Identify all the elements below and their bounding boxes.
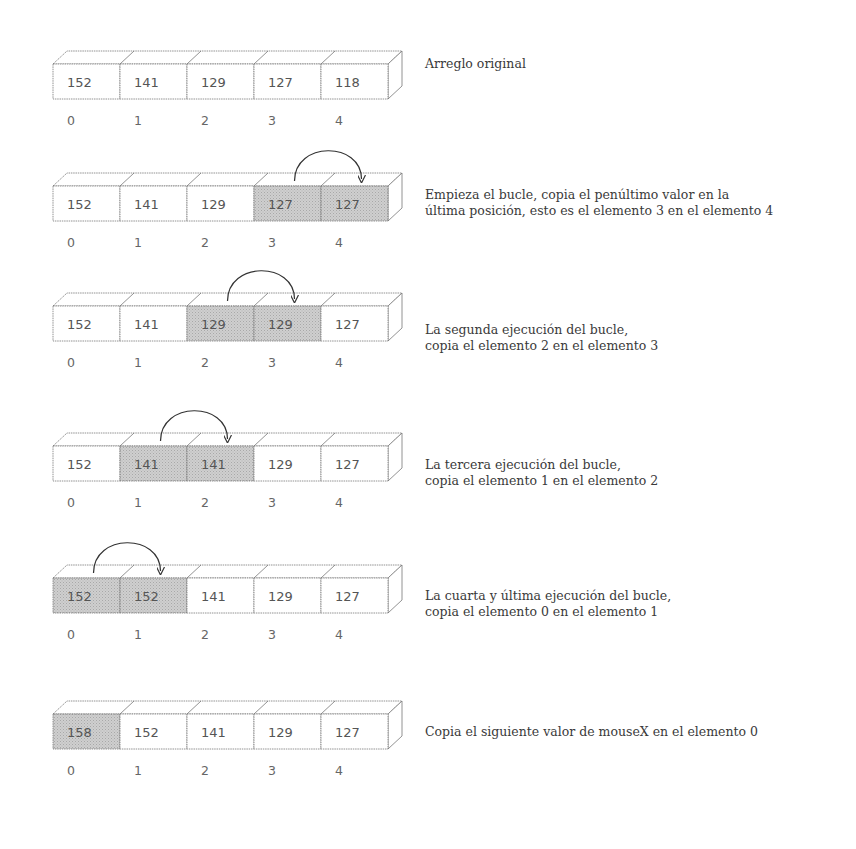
cell-value: 152 [134,725,159,740]
cell-index: 4 [335,235,343,250]
cell-index: 1 [134,235,142,250]
array-cell: 141 [120,64,187,99]
cell-value: 141 [201,725,226,740]
array-cell: 127 [254,186,321,221]
cell-index: 2 [201,235,209,250]
cell-value: 127 [335,457,360,472]
diagram-canvas: 1520141112921273118415201411129212731274… [0,0,856,849]
cell-index: 4 [335,355,343,370]
cell-index: 1 [134,113,142,128]
array-cell: 129 [254,446,321,481]
array-cell: 129 [187,306,254,341]
array-cell: 141 [120,446,187,481]
array-cell: 127 [321,446,388,481]
cell-index: 4 [335,495,343,510]
cell-value: 129 [268,725,293,740]
step-caption: La tercera ejecución del bucle, copia el… [425,457,658,489]
cell-value: 141 [201,589,226,604]
cell-index: 3 [268,763,276,778]
cell-value: 141 [134,197,159,212]
array-cell: 152 [53,186,120,221]
cell-index: 4 [335,763,343,778]
array-cell: 129 [254,578,321,613]
array-cell: 141 [187,714,254,749]
cell-value: 152 [67,197,92,212]
array-cell: 141 [187,446,254,481]
array-cell: 127 [254,64,321,99]
array-cell: 152 [53,306,120,341]
array-top-face [53,701,402,714]
array-row: 15201521141212931274 [53,543,402,642]
step-caption: Copia el siguiente valor de mouseX en el… [425,724,758,740]
cell-index: 1 [134,763,142,778]
cell-index: 2 [201,113,209,128]
cell-index: 0 [67,495,75,510]
array-row: 15201411129212731184 [53,51,402,128]
array-cell: 127 [321,186,388,221]
array-row: 15801521141212931274 [53,701,402,778]
array-cell: 127 [321,306,388,341]
cell-value: 152 [67,457,92,472]
cell-value: 141 [134,457,159,472]
array-cell: 141 [120,306,187,341]
cell-value: 127 [335,725,360,740]
cell-index: 4 [335,627,343,642]
array-cell: 118 [321,64,388,99]
cell-index: 4 [335,113,343,128]
step-caption: La cuarta y última ejecución del bucle, … [425,588,671,620]
cell-value: 141 [201,457,226,472]
array-cell: 158 [53,714,120,749]
array-cell: 129 [254,714,321,749]
cell-index: 2 [201,355,209,370]
cell-value: 158 [67,725,92,740]
cell-value: 152 [67,589,92,604]
cell-value: 127 [268,197,293,212]
cell-index: 0 [67,627,75,642]
array-top-face [53,173,402,186]
array-cell: 152 [53,64,120,99]
step-caption: Empieza el bucle, copia el penúltimo val… [425,187,773,219]
cell-index: 0 [67,763,75,778]
array-cell: 129 [187,186,254,221]
cell-value: 127 [335,589,360,604]
cell-value: 152 [67,75,92,90]
cell-index: 2 [201,627,209,642]
cell-value: 152 [134,589,159,604]
cell-value: 129 [201,197,226,212]
cell-index: 1 [134,495,142,510]
step-caption: La segunda ejecución del bucle, copia el… [425,322,658,354]
array-cell: 129 [187,64,254,99]
array-cell: 152 [120,578,187,613]
cell-index: 1 [134,355,142,370]
cell-value: 127 [335,317,360,332]
step-caption: Arreglo original [425,56,526,72]
array-cell: 127 [321,578,388,613]
cell-value: 129 [268,457,293,472]
array-row: 15201411129212931274 [53,271,402,370]
array-cell: 141 [187,578,254,613]
cell-value: 129 [201,75,226,90]
array-cell: 152 [53,578,120,613]
array-row: 15201411141212931274 [53,411,402,510]
array-row: 15201411129212731274 [53,151,402,250]
cell-index: 0 [67,113,75,128]
array-cell: 129 [254,306,321,341]
cell-value: 127 [335,197,360,212]
cell-value: 127 [268,75,293,90]
cell-index: 2 [201,763,209,778]
cell-index: 1 [134,627,142,642]
array-shift-diagram: 1520141112921273118415201411129212731274… [0,0,856,849]
cell-value: 129 [268,317,293,332]
cell-index: 3 [268,355,276,370]
cell-value: 141 [134,75,159,90]
array-cell: 152 [120,714,187,749]
cell-value: 141 [134,317,159,332]
cell-index: 3 [268,235,276,250]
cell-index: 3 [268,113,276,128]
cell-index: 2 [201,495,209,510]
array-cell: 127 [321,714,388,749]
cell-value: 129 [268,589,293,604]
cell-value: 129 [201,317,226,332]
array-top-face [53,565,402,578]
cell-index: 0 [67,235,75,250]
